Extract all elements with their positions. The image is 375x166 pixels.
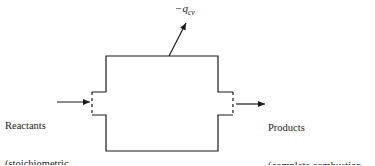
- outlet-label: Products (complete combustion at standar…: [268, 97, 362, 165]
- heat-transfer-label: −qcv: [175, 2, 195, 17]
- inlet-label: Reactants (stoichiometric fuel–air mixtu…: [5, 95, 74, 165]
- heat-arrow: [169, 23, 186, 56]
- outlet-title: Products: [268, 122, 362, 135]
- control-volume-boundary: [92, 56, 233, 151]
- heat-symbol: −q: [175, 2, 188, 14]
- inlet-line: (stoichiometric: [5, 158, 74, 166]
- outlet-line: (complete combustion: [268, 160, 362, 166]
- heat-subscript: cv: [188, 8, 195, 17]
- inlet-title: Reactants: [5, 120, 74, 133]
